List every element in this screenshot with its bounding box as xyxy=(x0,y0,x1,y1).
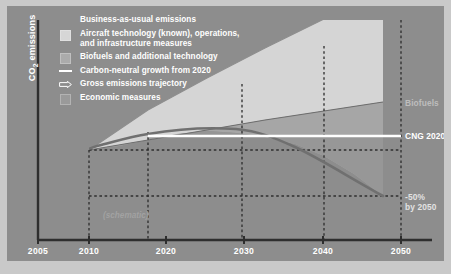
legend-label-aircraft-line1: Aircraft technology (known), operations, xyxy=(80,29,239,38)
legend-line-marker-icon xyxy=(59,66,73,77)
legend-item-gross-emissions-trajectory: Gross emissions trajectory xyxy=(59,79,249,90)
legend-item-biofuels: Biofuels and additional technology xyxy=(59,52,249,63)
x-tick-label-2040: 2040 xyxy=(313,246,333,256)
legend-label-carbon-neutral-growth: Carbon-neutral growth from 2020 xyxy=(80,66,211,77)
y-axis-title-main: CO xyxy=(27,67,37,81)
annotation-biofuels: Biofuels xyxy=(405,98,439,108)
annotation-minus-50-line1: -50% xyxy=(405,192,425,202)
legend-item-business-as-usual: Business-as-usual emissions xyxy=(59,15,249,26)
legend-swatch-aircraft-technology-icon xyxy=(59,29,73,40)
x-tick-label-2005: 2005 xyxy=(28,246,48,256)
legend-label-business-as-usual: Business-as-usual emissions xyxy=(80,15,196,26)
annotation-minus-50-line2: by 2050 xyxy=(405,202,436,212)
legend-label-biofuels: Biofuels and additional technology xyxy=(80,52,218,63)
chart-screenshot: CO2 emissions Business-as-usual emission… xyxy=(0,0,451,274)
legend-marker-empty xyxy=(59,15,73,26)
chart-legend: Business-as-usual emissions Aircraft tec… xyxy=(59,15,249,106)
legend-item-carbon-neutral-growth: Carbon-neutral growth from 2020 xyxy=(59,66,249,77)
annotation-schematic: (schematic) xyxy=(103,211,149,220)
band-economic-measures xyxy=(148,131,383,196)
legend-item-aircraft-technology: Aircraft technology (known), operations,… xyxy=(59,29,249,50)
legend-arrow-marker-icon xyxy=(59,79,73,90)
annotation-minus-50-percent: -50% by 2050 xyxy=(405,192,436,212)
legend-label-aircraft-line2: and infrastructure measures xyxy=(80,39,192,48)
annotation-cng-2020: CNG 2020 xyxy=(405,131,444,141)
legend-swatch-economic-measures-icon xyxy=(59,93,73,104)
chart-figure: CO2 emissions Business-as-usual emission… xyxy=(7,6,444,261)
legend-swatch-biofuels-icon xyxy=(59,52,73,63)
legend-label-economic-measures: Economic measures xyxy=(80,93,161,104)
x-tick-label-2050: 2050 xyxy=(391,246,411,256)
y-axis-title-subscript: 2 xyxy=(32,63,39,67)
x-tick-label-2020: 2020 xyxy=(156,246,176,256)
legend-label-gross-emissions-trajectory: Gross emissions trajectory xyxy=(80,79,187,90)
legend-item-economic-measures: Economic measures xyxy=(59,93,249,104)
x-tick-label-2030: 2030 xyxy=(234,246,254,256)
y-axis-title: CO2 emissions xyxy=(27,6,39,96)
y-axis-title-tail: emissions xyxy=(27,15,37,64)
x-tick-label-2010: 2010 xyxy=(79,246,99,256)
legend-label-aircraft-technology: Aircraft technology (known), operations,… xyxy=(80,29,239,50)
